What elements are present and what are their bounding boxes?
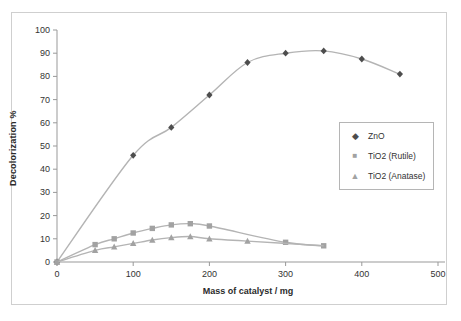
data-point-diamond (397, 71, 403, 78)
legend-label: TiO2 (Anatase) (368, 171, 425, 181)
data-point-square (131, 230, 136, 235)
legend-item-tio2-anatase: ▲ TiO2 (Anatase) (350, 171, 433, 181)
data-point-square (188, 221, 193, 226)
y-tick-label: 70 (40, 95, 50, 105)
data-point-square (207, 223, 212, 228)
data-point-square (92, 242, 97, 247)
y-tick-label: 60 (40, 118, 50, 128)
data-point-diamond (359, 56, 365, 63)
y-tick-label: 10 (40, 234, 50, 244)
y-tick-label: 0 (45, 257, 50, 267)
zno-diamond-icon: ◆ (350, 131, 360, 141)
data-point-diamond (244, 59, 250, 66)
x-tick-label: 200 (202, 269, 217, 279)
y-tick-label: 30 (40, 187, 50, 197)
y-tick-label: 90 (40, 48, 50, 58)
data-point-square (112, 236, 117, 241)
x-tick-label: 400 (354, 269, 369, 279)
y-tick-label: 20 (40, 211, 50, 221)
y-tick-label: 40 (40, 164, 50, 174)
x-tick-label: 100 (126, 269, 141, 279)
data-point-diamond (283, 50, 289, 57)
x-tick-label: 500 (430, 269, 445, 279)
legend: ◆ ZnO ■ TiO2 (Rutile) ▲ TiO2 (Anatase) (339, 122, 434, 190)
y-tick-label: 100 (35, 25, 50, 35)
data-point-diamond (321, 48, 327, 55)
y-tick-label: 50 (40, 141, 50, 151)
legend-item-tio2-rutile: ■ TiO2 (Rutile) (350, 151, 433, 161)
x-tick-label: 0 (54, 269, 59, 279)
x-tick-label: 300 (278, 269, 293, 279)
legend-label: ZnO (368, 131, 385, 141)
tio2-rutile-square-icon: ■ (350, 151, 360, 161)
x-axis-title: Mass of catalyst / mg (57, 286, 439, 296)
chart-figure: 01020304050607080901000100200300400500 D… (0, 0, 461, 321)
legend-label: TiO2 (Rutile) (368, 151, 416, 161)
tio2-anatase-triangle-icon: ▲ (350, 171, 360, 181)
legend-item-zno: ◆ ZnO (350, 131, 433, 141)
y-tick-label: 80 (40, 71, 50, 81)
data-point-square (169, 222, 174, 227)
data-point-square (150, 226, 155, 231)
y-axis-title: Decolorization % (8, 98, 22, 198)
